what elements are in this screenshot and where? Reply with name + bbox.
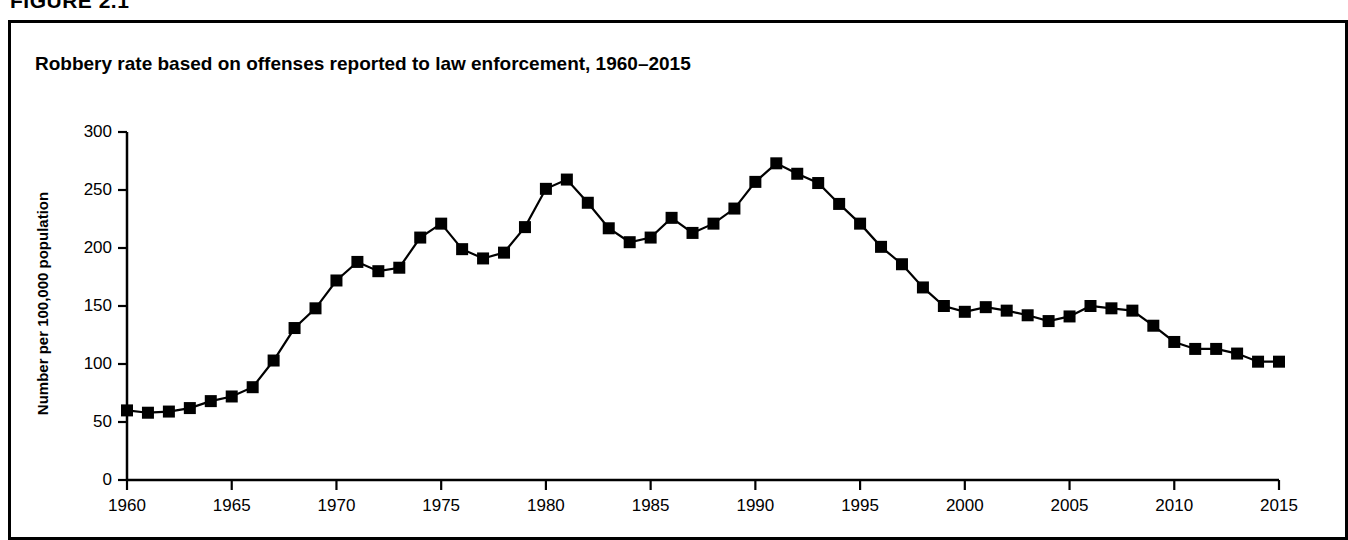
data-point-marker (1001, 305, 1013, 317)
data-point-marker (519, 221, 531, 233)
data-point-marker (603, 222, 615, 234)
data-point-marker (1043, 315, 1055, 327)
data-point-marker (1252, 356, 1264, 368)
data-point-marker (247, 381, 259, 393)
y-axis-tick-label: 250 (57, 180, 112, 200)
data-point-marker (645, 232, 657, 244)
data-point-marker (498, 247, 510, 259)
data-point-marker (1189, 343, 1201, 355)
data-point-marker (372, 265, 384, 277)
x-axis-tick-label: 2000 (920, 496, 1010, 516)
x-axis-tick-label: 2010 (1129, 496, 1219, 516)
data-point-marker (666, 212, 678, 224)
data-point-marker (1210, 343, 1222, 355)
data-point-marker (1022, 309, 1034, 321)
data-point-marker (980, 301, 992, 313)
data-point-marker (770, 157, 782, 169)
data-point-marker (833, 198, 845, 210)
data-point-marker (791, 168, 803, 180)
data-point-marker (561, 174, 573, 186)
data-point-marker (414, 232, 426, 244)
y-axis-tick-label: 200 (57, 238, 112, 258)
data-point-marker (142, 407, 154, 419)
data-point-marker (226, 390, 238, 402)
data-point-marker (310, 302, 322, 314)
data-point-marker (1231, 348, 1243, 360)
data-point-marker (184, 402, 196, 414)
data-series-robbery-rate (121, 157, 1285, 418)
x-axis-tick-label: 1985 (606, 496, 696, 516)
x-axis-tick-label: 1990 (710, 496, 800, 516)
data-point-marker (917, 281, 929, 293)
x-axis-tick-label: 2005 (1025, 496, 1115, 516)
data-point-marker (749, 176, 761, 188)
x-axis-tick-label: 1960 (82, 496, 172, 516)
data-point-marker (205, 395, 217, 407)
data-point-marker (896, 258, 908, 270)
data-point-marker (1064, 310, 1076, 322)
x-axis-tick-label: 1970 (291, 496, 381, 516)
data-point-marker (875, 241, 887, 253)
series-line (127, 163, 1279, 412)
data-point-marker (456, 243, 468, 255)
data-point-marker (330, 274, 342, 286)
data-point-marker (854, 218, 866, 230)
x-axis-tick-label: 1995 (815, 496, 905, 516)
data-point-marker (582, 197, 594, 209)
y-axis-tick-label: 50 (57, 412, 112, 432)
data-point-marker (1147, 320, 1159, 332)
data-point-marker (707, 218, 719, 230)
x-axis-tick-label: 1965 (187, 496, 277, 516)
data-point-marker (351, 256, 363, 268)
x-axis-tick-label: 2015 (1234, 496, 1324, 516)
data-point-marker (477, 252, 489, 264)
y-axis-tick-label: 300 (57, 122, 112, 142)
data-point-marker (624, 236, 636, 248)
data-point-marker (121, 404, 133, 416)
data-point-marker (959, 306, 971, 318)
x-axis-tick-label: 1980 (501, 496, 591, 516)
axes-group (118, 132, 1279, 490)
data-point-marker (728, 203, 740, 215)
data-point-marker (687, 227, 699, 239)
data-point-marker (1084, 300, 1096, 312)
y-axis-tick-label: 100 (57, 354, 112, 374)
data-point-marker (435, 218, 447, 230)
data-point-marker (1105, 302, 1117, 314)
data-point-marker (812, 177, 824, 189)
data-point-marker (289, 322, 301, 334)
data-point-marker (1168, 336, 1180, 348)
data-point-marker (163, 406, 175, 418)
data-point-marker (540, 183, 552, 195)
y-axis-tick-label: 0 (57, 470, 112, 490)
data-point-marker (393, 262, 405, 274)
x-axis-tick-label: 1975 (396, 496, 486, 516)
y-axis-tick-label: 150 (57, 296, 112, 316)
data-point-marker (268, 355, 280, 367)
data-point-marker (938, 300, 950, 312)
data-point-marker (1273, 356, 1285, 368)
data-point-marker (1126, 305, 1138, 317)
